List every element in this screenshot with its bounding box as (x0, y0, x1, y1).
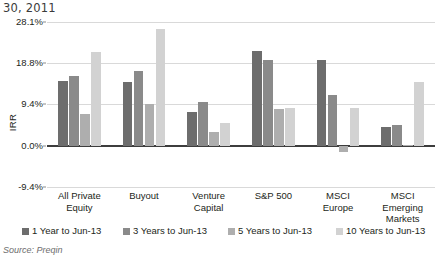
bar[interactable] (209, 132, 219, 146)
y-axis-tick-mark (43, 145, 46, 146)
bar[interactable] (134, 71, 144, 146)
y-axis-tick-label: 0.0% (21, 141, 43, 151)
bar[interactable] (392, 125, 402, 146)
bar[interactable] (252, 51, 262, 146)
bar[interactable] (58, 81, 68, 146)
bar[interactable] (381, 127, 391, 146)
bar-group (370, 22, 435, 187)
legend-swatch-icon (123, 228, 130, 235)
chart-heading: 30, 2011 (3, 1, 56, 15)
bar[interactable] (91, 52, 101, 145)
legend-label: 1 Year to Jun-13 (32, 226, 101, 236)
legend-item[interactable]: 3 Years to Jun-13 (123, 226, 207, 236)
bar-group (112, 22, 177, 187)
bar[interactable] (198, 102, 208, 146)
x-axis-label-line: Markets (370, 213, 435, 225)
bar[interactable] (69, 76, 79, 146)
x-axis-labels: All PrivateEquityBuyoutVentureCapitalS&P… (47, 190, 435, 230)
x-axis-label: VentureCapital (176, 190, 241, 213)
bar[interactable] (263, 60, 273, 145)
bar[interactable] (274, 109, 284, 146)
x-axis-label-line: Emerging (370, 202, 435, 214)
legend-swatch-icon (228, 228, 235, 235)
y-axis-tick-mark (43, 187, 46, 188)
legend-item[interactable]: 10 Years to Jun-13 (336, 226, 425, 236)
y-axis-tick-label: 18.8% (16, 58, 43, 68)
legend-item[interactable]: 5 Years to Jun-13 (228, 226, 312, 236)
y-axis-tick-mark (43, 62, 46, 63)
bars-layer (47, 22, 435, 187)
bar-group (241, 22, 306, 187)
x-axis-label-line: MSCI (370, 190, 435, 202)
y-axis-tick-label: 9.4% (21, 100, 43, 110)
bar[interactable] (350, 108, 360, 145)
bar[interactable] (285, 108, 295, 145)
x-axis-label-line: Buyout (112, 190, 177, 202)
y-axis-ticks: 28.1%18.8%9.4%0.0%-9.4% (8, 22, 46, 187)
y-axis-tick-mark (43, 22, 46, 23)
chart-legend: 1 Year to Jun-133 Years to Jun-135 Years… (0, 226, 439, 240)
x-axis-label-line: Venture (176, 190, 241, 202)
x-axis-label-line: Equity (47, 202, 112, 214)
bar-group (47, 22, 112, 187)
plot-grid (47, 22, 435, 187)
x-axis-label: MSCIEurope (306, 190, 371, 213)
x-axis-label: All PrivateEquity (47, 190, 112, 213)
bar[interactable] (156, 29, 166, 146)
y-axis-tick-label: 28.1% (16, 17, 43, 27)
legend-item[interactable]: 1 Year to Jun-13 (22, 226, 101, 236)
x-axis-label-line: All Private (47, 190, 112, 202)
bar-group (176, 22, 241, 187)
bar[interactable] (317, 60, 327, 145)
legend-label: 5 Years to Jun-13 (238, 226, 312, 236)
x-axis-label-line: Capital (176, 202, 241, 214)
bar[interactable] (339, 146, 349, 153)
bar[interactable] (414, 82, 424, 146)
bar[interactable] (187, 112, 197, 146)
legend-swatch-icon (22, 228, 29, 235)
bar[interactable] (80, 114, 90, 145)
legend-swatch-icon (336, 228, 343, 235)
legend-label: 3 Years to Jun-13 (133, 226, 207, 236)
bar-group (306, 22, 371, 187)
x-axis-label: Buyout (112, 190, 177, 202)
legend-label: 10 Years to Jun-13 (346, 226, 425, 236)
bar[interactable] (145, 104, 155, 145)
gridline (47, 187, 435, 188)
y-axis-tick-mark (43, 104, 46, 105)
x-axis-label-line: MSCI (306, 190, 371, 202)
bar[interactable] (328, 95, 338, 146)
bar[interactable] (220, 123, 230, 145)
x-axis-label-line: S&P 500 (241, 190, 306, 202)
y-axis-tick-label: -9.4% (18, 182, 43, 192)
plot-area: IRR 28.1%18.8%9.4%0.0%-9.4% All PrivateE… (0, 22, 439, 222)
bar[interactable] (403, 145, 413, 146)
x-axis-label: S&P 500 (241, 190, 306, 202)
x-axis-label-line: Europe (306, 202, 371, 214)
x-axis-label: MSCIEmergingMarkets (370, 190, 435, 225)
bar[interactable] (123, 82, 133, 146)
source-note: Source: Preqin (3, 245, 63, 255)
